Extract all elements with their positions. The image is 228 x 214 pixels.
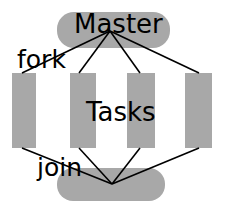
tasks-label: Tasks — [85, 97, 156, 127]
fork-join-diagram: Master fork Tasks join — [0, 0, 228, 214]
task-node-4[interactable] — [185, 73, 212, 148]
fork-label: fork — [17, 45, 66, 74]
task-node-1[interactable] — [12, 73, 36, 148]
master-label: Master — [74, 9, 163, 39]
join-label: join — [36, 153, 82, 182]
